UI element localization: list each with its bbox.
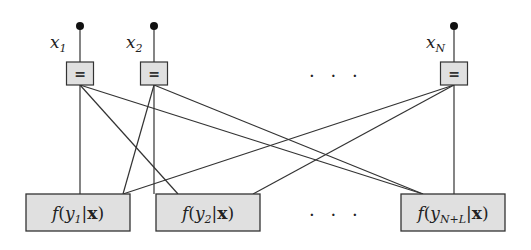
ellipsis-top: · · · bbox=[309, 65, 363, 86]
edge bbox=[123, 85, 454, 194]
factor-graph: x1=x2=xN= f(y1|x)f(y2|x)f(yN+L|x) · · · … bbox=[0, 0, 531, 250]
variable-x2: x2= bbox=[126, 22, 168, 85]
variable-dot-icon bbox=[76, 22, 84, 30]
factor-fNL: f(yN+L|x) bbox=[401, 194, 505, 231]
factor-f1: f(y1|x) bbox=[26, 194, 130, 231]
edges bbox=[80, 85, 454, 194]
edge bbox=[80, 85, 178, 194]
equality-symbol: = bbox=[148, 66, 160, 82]
factor-nodes: f(y1|x)f(y2|x)f(yN+L|x) bbox=[26, 194, 505, 231]
edge bbox=[123, 85, 154, 194]
equality-symbol: = bbox=[448, 66, 460, 82]
variable-nodes: x1=x2=xN= bbox=[50, 22, 468, 85]
variable-x1: x1= bbox=[50, 22, 94, 85]
variable-label: x1 bbox=[50, 32, 67, 55]
edge bbox=[253, 85, 454, 194]
variable-dot-icon bbox=[450, 22, 458, 30]
equality-symbol: = bbox=[74, 66, 86, 82]
variable-label: x2 bbox=[126, 32, 143, 55]
variable-label: xN bbox=[426, 32, 446, 55]
ellipsis-bottom: · · · bbox=[309, 204, 363, 225]
variable-dot-icon bbox=[150, 22, 158, 30]
variable-xN: xN= bbox=[426, 22, 468, 85]
factor-f2: f(y2|x) bbox=[156, 194, 260, 231]
edge bbox=[80, 85, 423, 194]
